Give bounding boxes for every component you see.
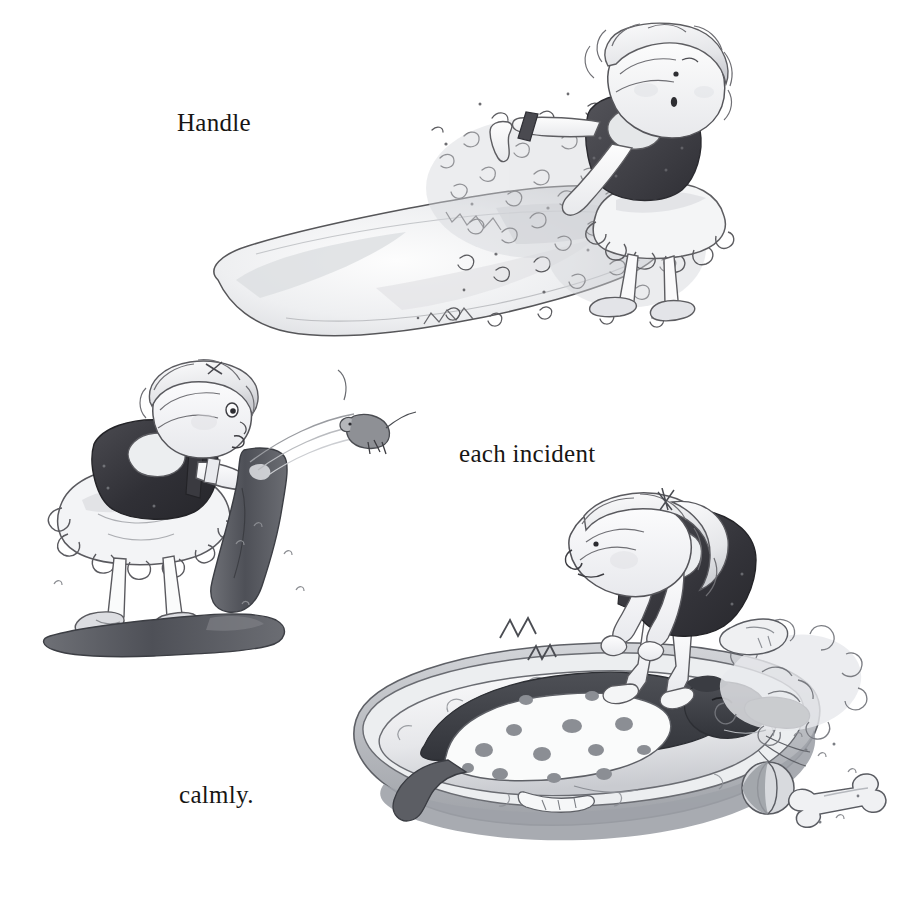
caption-handle: Handle [177,110,251,136]
picture-book-page: Handle each incident calmly. [0,0,917,922]
illustration-girl-with-burst-pillow [196,18,770,348]
ball-toy [742,762,794,814]
caption-each-incident: each incident [459,441,595,467]
caption-calmly: calmly. [179,782,254,808]
illustration-girl-with-dog-in-bed [328,488,898,880]
bone-toy [789,774,886,827]
